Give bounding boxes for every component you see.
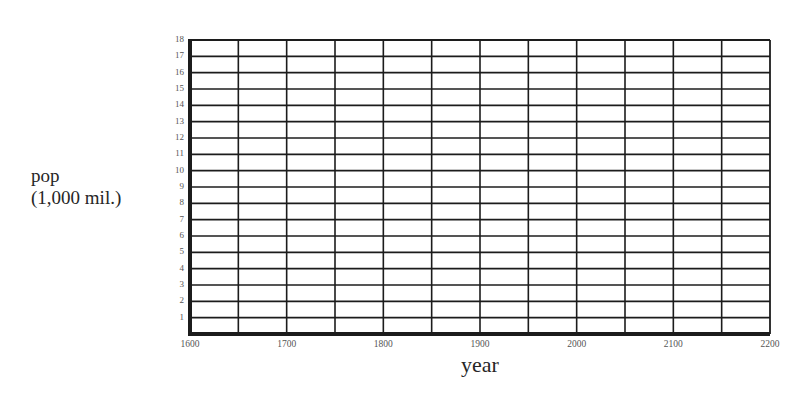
y-tick-label: 4 xyxy=(164,263,184,273)
y-tick-label: 15 xyxy=(164,83,184,93)
y-tick-label: 2 xyxy=(164,295,184,305)
x-tick-label: 2000 xyxy=(557,339,597,349)
x-tick-label: 1900 xyxy=(460,339,500,349)
x-axis-label: year xyxy=(461,352,499,378)
x-tick-label: 2100 xyxy=(653,339,693,349)
y-tick-label: 12 xyxy=(164,132,184,142)
x-tick-label: 1700 xyxy=(267,339,307,349)
y-tick-label: 1 xyxy=(164,312,184,322)
x-tick-label: 2200 xyxy=(750,339,790,349)
y-tick-label: 18 xyxy=(164,34,184,44)
y-tick-label: 13 xyxy=(164,116,184,126)
y-tick-label: 16 xyxy=(164,67,184,77)
y-tick-label: 10 xyxy=(164,165,184,175)
y-tick-label: 14 xyxy=(164,99,184,109)
y-tick-label: 7 xyxy=(164,214,184,224)
y-tick-label: 3 xyxy=(164,279,184,289)
y-tick-label: 17 xyxy=(164,50,184,60)
y-axis-label: pop (1,000 mil.) xyxy=(31,165,121,209)
y-axis-label-line2: (1,000 mil.) xyxy=(31,187,121,209)
y-tick-label: 6 xyxy=(164,230,184,240)
y-tick-label: 11 xyxy=(164,148,184,158)
y-tick-label: 8 xyxy=(164,197,184,207)
x-tick-label: 1600 xyxy=(170,339,210,349)
y-tick-label: 9 xyxy=(164,181,184,191)
grid-lines xyxy=(190,40,770,334)
x-tick-label: 1800 xyxy=(363,339,403,349)
plot-area xyxy=(190,40,770,334)
y-tick-label: 5 xyxy=(164,246,184,256)
y-axis-label-line1: pop xyxy=(31,165,121,187)
